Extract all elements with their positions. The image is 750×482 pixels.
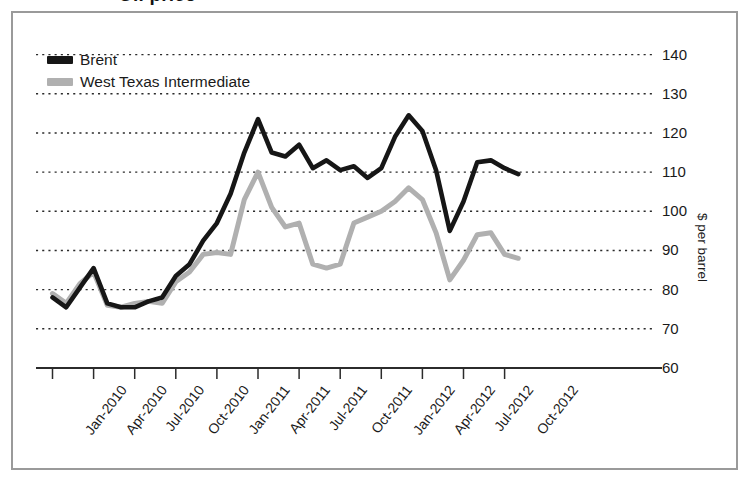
y-axis-title: $ per barrel (695, 213, 710, 282)
legend-label-brent: Brent (80, 51, 117, 69)
x-axis-ticks (53, 368, 505, 379)
page-title: Oil price (118, 0, 196, 6)
cropped-title: Oil price (0, 0, 750, 9)
y-tick-label: 140 (662, 46, 687, 63)
legend-item-wti: West Texas Intermediate (47, 71, 250, 93)
legend-swatch-brent (47, 56, 73, 64)
y-tick-label: 70 (662, 320, 679, 337)
legend-swatch-wti (47, 78, 73, 86)
legend-item-brent: Brent (47, 49, 250, 71)
y-tick-label: 90 (662, 241, 679, 258)
y-tick-label: 110 (662, 163, 686, 180)
y-tick-label: 60 (662, 359, 679, 376)
y-tick-label: 100 (662, 202, 687, 219)
chart-container: Brent West Texas Intermediate 1401301201… (11, 11, 738, 470)
chart-legend: Brent West Texas Intermediate (47, 49, 250, 93)
y-tick-label: 130 (662, 85, 687, 102)
series-line-wti (53, 172, 519, 307)
y-tick-label: 120 (662, 124, 687, 141)
legend-label-wti: West Texas Intermediate (80, 73, 250, 91)
gridlines (36, 55, 652, 329)
y-tick-label: 80 (662, 281, 679, 298)
